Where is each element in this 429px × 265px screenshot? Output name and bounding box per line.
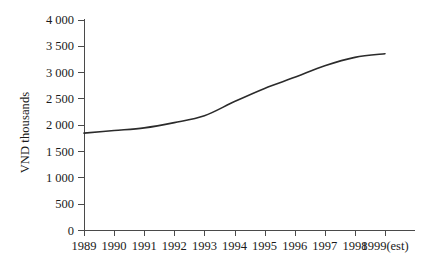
plot-area <box>0 0 429 265</box>
data-series-line <box>84 54 385 133</box>
line-chart: VND thousands 05001 0001 5002 0002 5003 … <box>0 0 429 265</box>
